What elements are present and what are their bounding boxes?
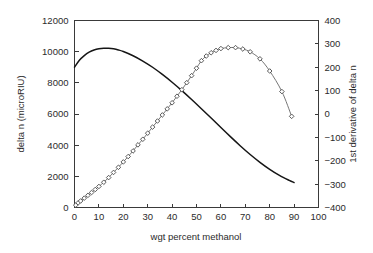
right-tick-label: −300 bbox=[325, 179, 346, 190]
bottom-tick-label: 20 bbox=[118, 211, 129, 222]
right-tick-label: 300 bbox=[325, 38, 341, 49]
bottom-tick-label: 100 bbox=[311, 211, 327, 222]
bottom-tick-label: 10 bbox=[94, 211, 105, 222]
right-tick-label: −200 bbox=[325, 155, 346, 166]
left-tick-label: 12000 bbox=[42, 15, 68, 26]
bottom-tick-label: 80 bbox=[264, 211, 275, 222]
left-tick-label: 6000 bbox=[47, 108, 68, 119]
bottom-tick-label: 50 bbox=[191, 211, 202, 222]
left-axis-title: delta n (microRIU) bbox=[15, 75, 26, 152]
right-axis-title: 1st derivative of delta n bbox=[347, 65, 358, 163]
left-tick-label: 0 bbox=[63, 202, 68, 213]
left-tick-label: 4000 bbox=[47, 140, 68, 151]
chart-figure: 020004000600080001000012000 400300200100… bbox=[0, 0, 373, 253]
right-tick-label: 200 bbox=[325, 62, 341, 73]
right-tick-label: −400 bbox=[325, 202, 346, 213]
right-tick-label: 100 bbox=[325, 85, 341, 96]
right-tick-label: 400 bbox=[325, 15, 341, 26]
right-tick-label: −100 bbox=[325, 132, 346, 143]
left-tick-label: 2000 bbox=[47, 171, 68, 182]
bottom-tick-label: 70 bbox=[240, 211, 251, 222]
bottom-tick-label: 30 bbox=[142, 211, 153, 222]
bottom-tick-label: 0 bbox=[72, 211, 77, 222]
bottom-tick-label: 60 bbox=[216, 211, 227, 222]
left-tick-label: 10000 bbox=[42, 46, 68, 57]
bottom-tick-label: 40 bbox=[167, 211, 178, 222]
bottom-axis-title: wgt percent methanol bbox=[150, 231, 242, 242]
left-tick-label: 8000 bbox=[47, 77, 68, 88]
bottom-tick-label: 90 bbox=[289, 211, 300, 222]
right-tick-label: 0 bbox=[325, 108, 330, 119]
